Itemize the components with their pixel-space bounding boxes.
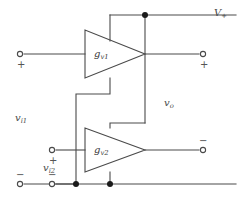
amp2-gain-label: gv2 [94, 145, 109, 156]
terminal-output-positive[interactable] [200, 51, 205, 56]
input-1-minus-sign: − [16, 170, 24, 180]
output-minus-sign: − [199, 136, 207, 146]
supply-positive-label: V+ [214, 8, 227, 19]
junction-supply-node [142, 12, 148, 18]
amp1-gain-label: gv1 [94, 49, 109, 60]
input-voltage-1-label: vi1 [15, 113, 27, 124]
wire-feedback-step [110, 123, 145, 128]
output-plus-sign: + [200, 60, 208, 70]
terminal-output-negative[interactable] [200, 147, 205, 152]
input-2-minus-sign: − [48, 170, 56, 180]
terminal-input-2-negative[interactable] [49, 181, 54, 186]
output-voltage-label: vo [164, 98, 174, 109]
junction-ground-node-right [107, 181, 113, 187]
input-2-plus-sign: + [49, 156, 57, 166]
terminal-input-2-positive[interactable] [49, 147, 54, 152]
input-1-plus-sign: + [17, 60, 25, 70]
terminal-input-1-negative[interactable] [17, 181, 22, 186]
junction-ground-node-left [73, 181, 79, 187]
schematic-svg [0, 0, 244, 201]
terminal-input-1-positive[interactable] [17, 51, 22, 56]
circuit-diagram-canvas: gv1 gv2 V+ vo vi1 vi2 + − + − + − [0, 0, 244, 201]
